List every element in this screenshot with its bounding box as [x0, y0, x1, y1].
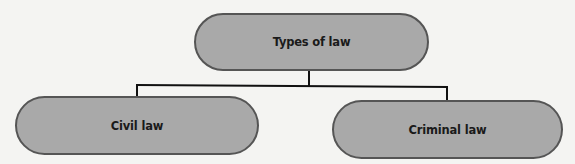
- node-civil-law: Civil law: [15, 96, 259, 155]
- law-types-diagram: Types of law Civil law Criminal law: [0, 0, 575, 164]
- node-types-of-law: Types of law: [194, 13, 429, 71]
- connector-horizontal: [137, 85, 447, 87]
- node-label: Types of law: [273, 35, 351, 49]
- node-label: Criminal law: [409, 123, 487, 137]
- node-criminal-law: Criminal law: [332, 100, 563, 159]
- node-label: Civil law: [111, 119, 163, 133]
